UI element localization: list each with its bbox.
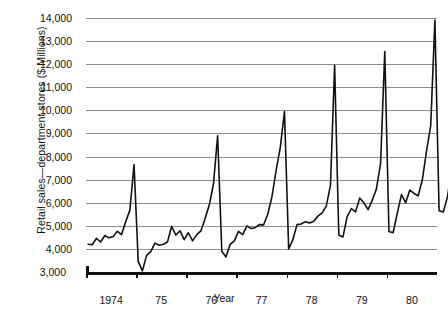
y-tick-label: 4,000 <box>0 243 76 255</box>
x-tick-mark <box>387 272 389 278</box>
x-axis-baseline <box>86 272 437 275</box>
x-tick-mark <box>136 272 138 278</box>
y-tick-label: 10,000 <box>0 104 76 116</box>
y-tick-label: 9,000 <box>0 127 76 139</box>
y-tick-label: 12,000 <box>0 58 76 70</box>
plot-area: 1974757677787980 <box>86 18 437 272</box>
y-tick-label: 11,000 <box>0 81 76 93</box>
y-tick-label: 14,000 <box>0 12 76 24</box>
y-tick-label: 13,000 <box>0 35 76 47</box>
x-tick-mark <box>186 272 188 278</box>
y-axis-tick-labels: 3,0004,0005,0006,0007,0008,0009,00010,00… <box>0 0 76 311</box>
x-tick-mark <box>337 272 339 278</box>
y-tick-label: 5,000 <box>0 220 76 232</box>
y-tick-label: 7,000 <box>0 174 76 186</box>
x-tick-mark <box>86 272 88 278</box>
chart-figure: Retail sales—department stores ($ Millio… <box>0 0 448 311</box>
x-tick-mark <box>287 272 289 278</box>
x-axis-title: Year <box>0 292 448 304</box>
y-tick-label: 3,000 <box>0 266 76 278</box>
y-tick-label: 8,000 <box>0 151 76 163</box>
y-tick-label: 6,000 <box>0 197 76 209</box>
x-tick-mark <box>236 272 238 278</box>
series-line <box>86 18 437 272</box>
